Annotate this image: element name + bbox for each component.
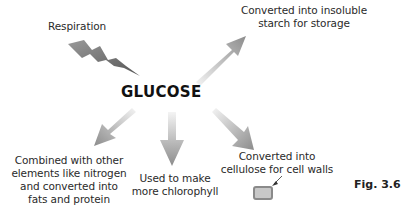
label-fats-line-4: fats and protein xyxy=(10,193,128,206)
label-fats-line-2: elements like nitrogen xyxy=(10,167,128,180)
label-starch: Converted into insoluble starch for stor… xyxy=(234,4,374,30)
label-cellulose-line-2: cellulose for cell walls xyxy=(218,163,336,176)
label-cellulose-line-1: Converted into xyxy=(218,150,336,163)
label-respiration: Respiration xyxy=(48,20,106,33)
label-starch-line-1: Converted into insoluble xyxy=(234,4,374,17)
plant-cell-icon xyxy=(253,186,273,200)
lightning-arrow-icon xyxy=(68,40,140,76)
label-fats-protein: Combined with other elements like nitrog… xyxy=(10,154,128,206)
label-chlorophyll: Used to make more chlorophyll xyxy=(130,172,220,198)
arrow-down-right-icon xyxy=(212,108,254,150)
arrow-down-icon xyxy=(160,112,184,166)
arrow-down-left-icon xyxy=(94,108,136,146)
label-starch-line-2: starch for storage xyxy=(234,17,374,30)
label-chlorophyll-line-2: more chlorophyll xyxy=(130,185,220,198)
figure-label: Fig. 3.6 xyxy=(354,178,401,191)
label-fats-line-3: and converted into xyxy=(10,180,128,193)
label-cellulose: Converted into cellulose for cell walls xyxy=(218,150,336,176)
arrow-up-right-icon xyxy=(196,36,246,86)
label-chlorophyll-line-1: Used to make xyxy=(130,172,220,185)
label-fats-line-1: Combined with other xyxy=(10,154,128,167)
center-label-glucose: GLUCOSE xyxy=(121,83,201,101)
pointer-arrow-icon xyxy=(272,176,282,186)
